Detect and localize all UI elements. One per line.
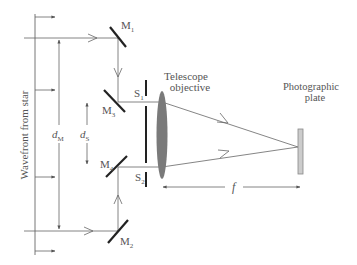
label-m4: M4 xyxy=(100,158,114,173)
label-dm: dM xyxy=(52,128,65,143)
ray-lower xyxy=(162,147,298,167)
label-focal-length: f xyxy=(232,180,237,194)
label-s1: S1 xyxy=(134,87,144,102)
ray-upper xyxy=(162,102,298,147)
interferometer-diagram: Wavefront from star M1 M3 M4 M2 S1 S2 dM… xyxy=(0,0,357,265)
label-s2: S2 xyxy=(135,171,145,186)
label-m1: M1 xyxy=(121,19,135,34)
label-m2: M2 xyxy=(120,235,134,250)
label-ds: dS xyxy=(80,128,90,143)
label-telescope-objective-2: objective xyxy=(170,81,210,93)
telescope-objective-lens xyxy=(157,91,168,179)
label-m3: M3 xyxy=(102,104,116,119)
wavefront-label: Wavefront from star xyxy=(18,90,30,179)
label-plate-1: Photographic xyxy=(283,81,339,92)
label-plate-2: plate xyxy=(305,92,326,103)
photographic-plate xyxy=(298,129,303,174)
